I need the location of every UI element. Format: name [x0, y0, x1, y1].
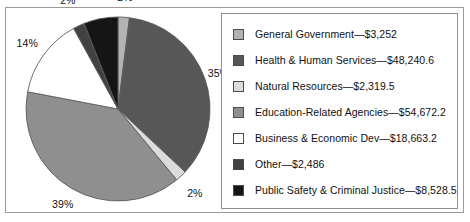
pie-graphic: 2%35%2%39%14%2%6%: [23, 14, 213, 204]
clipped-caption-text: [8, 0, 462, 4]
slice-percent-label: 6%: [89, 0, 104, 1]
legend-item-label: Other—$2,486: [255, 158, 324, 170]
legend-item: Business & Economic Dev—$18,663.2: [233, 125, 457, 151]
legend-color-swatch: [233, 133, 244, 144]
chart-legend: General Government—$3,252Health & Human …: [221, 13, 458, 209]
legend-item: General Government—$3,252: [233, 21, 457, 47]
legend-color-swatch: [233, 159, 244, 170]
legend-item: Natural Resources—$2,319.5: [233, 73, 457, 99]
slice-percent-label: 2%: [60, 0, 75, 6]
legend-entry-list: General Government—$3,252Health & Human …: [233, 21, 457, 203]
legend-item: Education-Related Agencies—$54,672.2: [233, 99, 457, 125]
legend-item: Other—$2,486: [233, 151, 457, 177]
pie-slice-group: [26, 17, 210, 201]
legend-item-label: Education-Related Agencies—$54,672.2: [255, 106, 446, 118]
legend-color-swatch: [233, 29, 244, 40]
pie-svg: [23, 14, 213, 204]
legend-item-label: Business & Economic Dev—$18,663.2: [255, 132, 437, 144]
legend-item-label: Natural Resources—$2,319.5: [255, 80, 395, 92]
slice-percent-label: 2%: [187, 187, 202, 199]
slice-percent-label: 39%: [52, 198, 73, 210]
legend-color-swatch: [233, 55, 244, 66]
legend-item-label: Public Safety & Criminal Justice—$8,528.…: [255, 184, 457, 196]
chart-frame: 2%35%2%39%14%2%6% General Government—$3,…: [5, 7, 464, 213]
legend-color-swatch: [233, 81, 244, 92]
legend-item-label: General Government—$3,252: [255, 28, 397, 40]
legend-color-swatch: [233, 107, 244, 118]
slice-percent-label: 2%: [117, 0, 132, 3]
legend-item: Health & Human Services—$48,240.6: [233, 47, 457, 73]
pie-plot-area: 2%35%2%39%14%2%6%: [6, 8, 221, 214]
legend-item: Public Safety & Criminal Justice—$8,528.…: [233, 177, 457, 203]
pie-chart-figure: 2%35%2%39%14%2%6% General Government—$3,…: [0, 0, 470, 222]
legend-item-label: Health & Human Services—$48,240.6: [255, 54, 434, 66]
legend-color-swatch: [233, 185, 244, 196]
slice-percent-label: 14%: [17, 37, 38, 49]
